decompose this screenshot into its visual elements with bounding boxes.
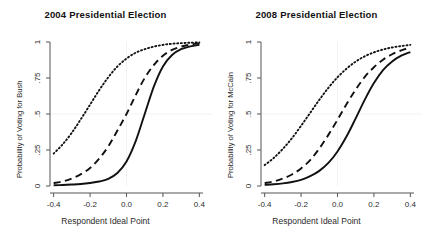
x-tick-label: 0.4: [405, 200, 416, 209]
y-tick-label: 0: [244, 184, 253, 188]
y-tick-label: .25: [33, 144, 42, 155]
x-tick-label: 0.2: [368, 200, 379, 209]
panel-2004: 2004 Presidential Election Respondent Id…: [0, 0, 211, 240]
plot-area-2004: [0, 0, 211, 240]
y-tick-label: .75: [244, 72, 253, 83]
y-tick-label: .5: [33, 111, 42, 118]
x-tick-label: -0.2: [83, 200, 97, 209]
x-tick-label: 0.2: [157, 200, 168, 209]
x-axis-title: Respondent Ideal Point: [211, 216, 422, 226]
x-tick-label: 0.0: [332, 200, 343, 209]
panel-2008: 2008 Presidential Election Respondent Id…: [211, 0, 422, 240]
plot-area-2008: [211, 0, 422, 240]
y-tick-label: .75: [33, 72, 42, 83]
y-tick-label: 1: [244, 40, 253, 44]
x-tick-label: 0.4: [194, 200, 205, 209]
y-axis-title: Probability of Voting for McCain: [226, 72, 235, 178]
x-tick-label: -0.4: [47, 200, 61, 209]
x-tick-label: -0.2: [294, 200, 308, 209]
y-axis-title: Probability of Voting for Bush: [15, 80, 24, 178]
y-tick-label: 0: [33, 184, 42, 188]
x-tick-label: 0.0: [121, 200, 132, 209]
y-tick-label: 1: [33, 40, 42, 44]
y-tick-label: .25: [244, 144, 253, 155]
x-axis-title: Respondent Ideal Point: [0, 216, 211, 226]
y-tick-label: .5: [244, 111, 253, 118]
x-tick-label: -0.4: [258, 200, 272, 209]
figure-root: 2004 Presidential Election Respondent Id…: [0, 0, 422, 240]
